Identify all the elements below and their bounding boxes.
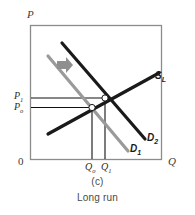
plot-frame xyxy=(31,26,162,160)
curve-label-d2: D2 xyxy=(147,132,158,145)
quantity-tick-q0-sub: o xyxy=(92,167,95,174)
curve-label-sl-sub: L xyxy=(162,76,166,83)
equilibrium-point-e0 xyxy=(89,104,95,110)
price-tick-p0: Po xyxy=(14,101,23,114)
x-axis-label: Q xyxy=(168,155,176,167)
curve-label-d1-sub: 1 xyxy=(137,149,141,156)
curve-label-d1: D1 xyxy=(130,143,141,156)
curve-label-d2-sub: 2 xyxy=(154,138,158,145)
curve-label-sl: SL xyxy=(155,70,166,83)
y-axis-label: P xyxy=(27,8,34,20)
curve-label-sl-letter: S xyxy=(155,70,162,81)
quantity-tick-q0: Qo xyxy=(85,161,95,174)
figure-caption: Long run xyxy=(0,192,195,203)
quantity-tick-q1-sub: 1 xyxy=(108,167,111,174)
equilibrium-point-e1 xyxy=(102,95,108,101)
origin-label: 0 xyxy=(18,155,24,167)
supply-curve-sl xyxy=(48,73,159,134)
panel-label: (c) xyxy=(0,176,195,187)
price-tick-p0-sub: o xyxy=(20,107,23,114)
demand-curve-d2 xyxy=(62,43,145,139)
quantity-tick-q1: Q1 xyxy=(101,161,111,174)
